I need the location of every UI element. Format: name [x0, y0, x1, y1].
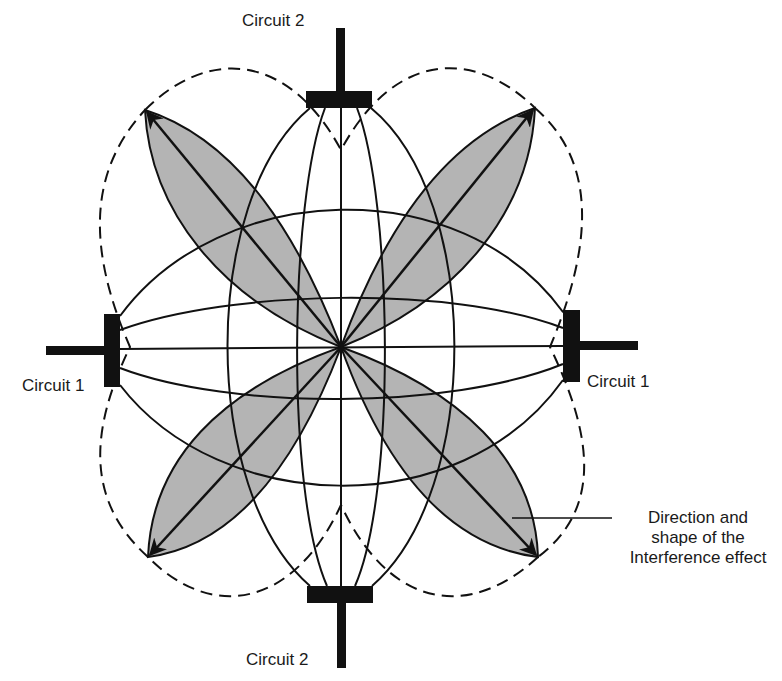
arrow-northwest-icon — [147, 112, 341, 347]
interference-callout: Direction and shape of the Interference … — [612, 508, 782, 568]
circuit1-right-label: Circuit 1 — [587, 372, 649, 392]
circuit2-bottom-label: Circuit 2 — [246, 650, 308, 670]
arrow-southwest-icon — [150, 347, 341, 555]
callout-line-3: Interference effect — [612, 548, 782, 568]
arrow-southeast-icon — [341, 347, 536, 555]
interference-diagram — [0, 0, 782, 681]
callout-line-2: shape of the — [612, 528, 782, 548]
circuit2-top-label: Circuit 2 — [242, 11, 304, 31]
circuit2-bottom-terminal — [307, 586, 373, 668]
circuit2-top-terminal — [306, 28, 372, 108]
circuit1-left-label: Circuit 1 — [22, 376, 84, 396]
callout-line-1: Direction and — [612, 508, 782, 528]
